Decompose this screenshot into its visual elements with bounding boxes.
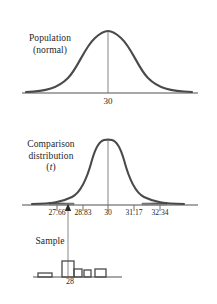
- tick-label-28-83: 28.83: [68, 208, 98, 217]
- sample-mean-value: 28: [57, 277, 83, 287]
- population-label-line1: Population: [8, 33, 92, 45]
- statistics-figure: Population (normal) 30 Comparison distri…: [0, 0, 217, 304]
- comparison-label-line3: (t): [6, 162, 96, 174]
- histogram-bar: [38, 273, 52, 277]
- comparison-panel-label: Comparison distribution (t): [6, 139, 96, 174]
- population-label-line2: (normal): [8, 45, 92, 57]
- histogram-bar: [84, 270, 91, 277]
- tick-label-32-34: 32.34: [145, 208, 175, 217]
- sample-panel: [33, 261, 122, 277]
- population-mean-value: 30: [93, 96, 123, 106]
- comparison-distribution-symbol: t: [50, 162, 53, 172]
- sample-panel-label: Sample: [22, 236, 78, 248]
- histogram-bar: [74, 269, 82, 277]
- comparison-label-line2: distribution: [6, 151, 96, 163]
- tick-label-30: 30: [98, 208, 118, 217]
- comparison-label-line1: Comparison: [6, 139, 96, 151]
- population-panel-label: Population (normal): [8, 33, 92, 56]
- histogram-bar: [95, 269, 106, 277]
- sample-histogram: [38, 261, 106, 277]
